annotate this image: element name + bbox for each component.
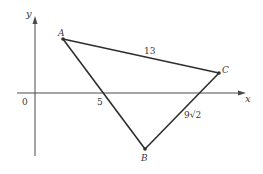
- point-b: [143, 147, 147, 151]
- side-bc-length-label: 9√2: [184, 110, 201, 120]
- side-bc: [145, 73, 219, 149]
- point-c-label: C: [222, 65, 229, 75]
- point-b-label: B: [140, 153, 148, 163]
- x-tick-label-5: 5: [97, 97, 103, 107]
- side-ab: [63, 39, 145, 149]
- triangle-diagram: y x 0 5 A B C 13 9√2: [0, 0, 263, 174]
- point-a-label: A: [57, 28, 65, 38]
- y-axis-label: y: [25, 8, 32, 19]
- side-ac-length-label: 13: [144, 46, 156, 56]
- point-c: [217, 71, 221, 75]
- side-ac: [63, 39, 219, 73]
- y-axis-arrow-icon: [33, 16, 38, 24]
- origin-label: 0: [22, 97, 28, 107]
- x-axis-label: x: [245, 93, 251, 104]
